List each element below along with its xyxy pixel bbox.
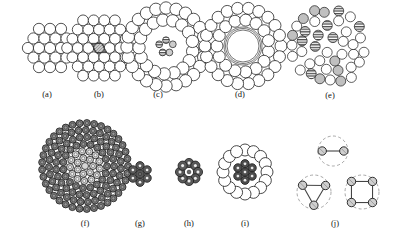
ring-circle-inner [92,206,95,209]
panel-label-j: (j) [331,219,339,228]
petal-circle-inner [145,176,149,180]
ring-circle-inner [69,148,72,151]
ring-circle-inner [104,172,107,175]
packing-circle [288,30,298,40]
ring-circle-inner [68,180,71,183]
packing-circle [319,7,329,17]
packing-circle [348,40,358,50]
ring-circle-inner [79,200,82,203]
ring-circle-inner [112,197,115,200]
ring-circle-inner [42,175,45,178]
ring-circle-inner [65,187,68,190]
ring-circle-inner [72,199,75,202]
ring-circle-inner [71,206,74,209]
inner-cluster-circle-inner [243,170,247,174]
packing-circle [328,33,338,43]
ring-circle-inner [100,196,103,199]
ring-circle-inner [57,154,60,157]
ring-circle-inner [56,175,59,178]
packing-circle [305,59,315,69]
circle-packing-figure [0,0,398,241]
ring-circle-inner [44,182,47,185]
packing-circle [315,74,325,84]
ring-circle-inner [93,137,96,140]
packing-circle [306,69,316,79]
ring-circle-inner [98,167,101,170]
petal-circle-inner [145,168,149,172]
figure-canvas: (a) (b) (c) (d) (e) (f) (g) (h) (i) (j) [0,0,398,241]
petal-circle-inner [138,164,142,168]
packing-circle [297,36,307,46]
ring-circle-inner [90,178,93,181]
core-circle [159,49,166,56]
ring-circle-inner [104,184,107,187]
ring-circle-inner [101,178,104,181]
panel-label-i: (i) [241,219,249,228]
packing-circle [292,21,302,31]
ring-circle-inner [71,191,74,194]
packing-circle [354,57,364,67]
ring-circle-inner [109,151,112,154]
ring-circle-inner [99,140,102,143]
ring-circle-inner [88,171,91,174]
ring-circle [213,51,225,63]
ring-circle-inner [55,168,58,171]
panel-i-ring-enclosing-cluster [217,144,273,200]
ring-circle-inner [98,160,101,163]
core-circle [166,49,173,56]
ring-circle-inner [89,143,92,146]
ring-circle-inner [75,144,78,147]
ring-circle-inner [105,135,108,138]
petal-circle-inner [193,176,197,180]
ring-circle-inner [78,193,81,196]
ring-circle-inner [76,168,79,171]
ring-circle-inner [117,137,120,140]
packing-circle [330,56,340,66]
ring-circle-inner [99,189,102,192]
ring-circle-inner [119,167,122,170]
ring-circle-inner [64,126,67,129]
ring-circle [273,29,285,41]
packing-circle [341,27,351,37]
ring-circle-inner [121,143,124,146]
ring-circle-inner [82,157,85,160]
ring-circle-inner [83,179,86,182]
panel-label-b: (b) [94,90,104,99]
ring-circle-inner [95,183,98,186]
ring-circle-inner [78,136,81,139]
packing-circle [322,20,332,30]
ring-circle-inner [91,164,94,167]
ring-circle-inner [115,181,118,184]
ring-circle [232,2,244,14]
ring-circle-inner [106,201,109,204]
packing-circle [336,76,346,86]
petal-circle-inner [178,170,182,174]
packing-circle [297,47,307,57]
inner-cluster-circle-inner [236,166,240,170]
packing-circle [321,64,331,74]
packing-circle [359,47,369,57]
petal-circle-inner [131,168,135,172]
ring-circle [186,35,198,47]
packing-circle [310,17,320,27]
panel-label-h: (h) [184,219,194,228]
panel-j-graph-diagrams [297,136,379,209]
ring-circle-inner [89,186,92,189]
ring-circle [82,163,89,170]
ring-circle-inner [48,173,51,176]
ring-circle-inner [109,179,112,182]
ring-circle-inner [48,188,51,191]
ring-circle [201,51,213,63]
panel-label-e: (e) [325,91,334,100]
ring-circle-inner [93,122,96,125]
ring-circle-inner [71,172,74,175]
ring-circle-inner [117,191,120,194]
ring-circle-inner [70,158,73,161]
ring-circle-inner [44,147,47,150]
ring-circle-inner [76,161,79,164]
ring-circle-inner [105,145,108,148]
ring-circle-inner [93,199,96,202]
ring-circle-inner [85,121,88,124]
ring-circle-inner [111,172,114,175]
ring-circle-inner [105,165,108,168]
